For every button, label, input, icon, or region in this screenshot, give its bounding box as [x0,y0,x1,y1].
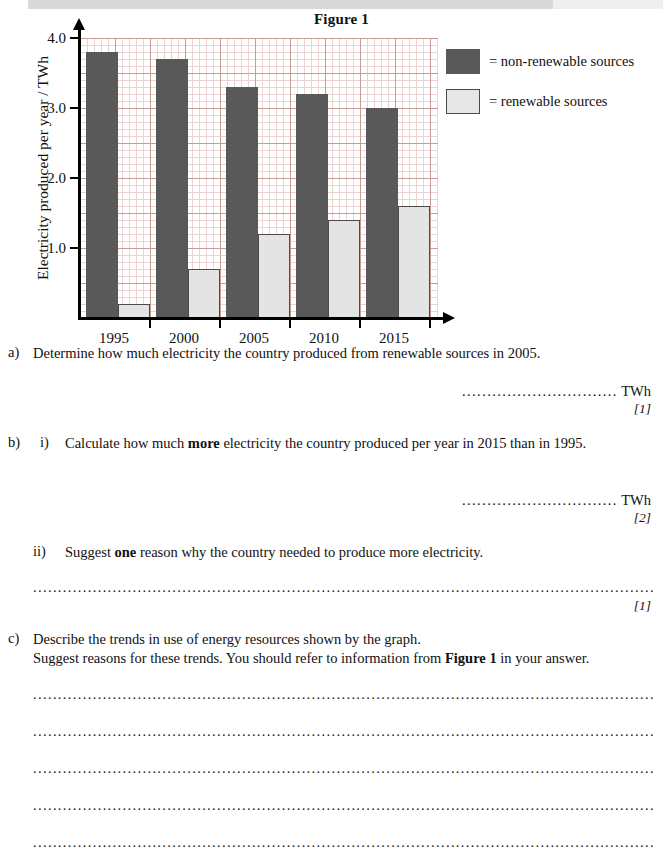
bar-nonrenewable-2005 [226,87,258,318]
y-axis-arrow-icon [73,18,85,30]
question-b-i-text-bold: more [188,435,220,451]
y-tick-mark-4 [70,37,80,39]
legend-swatch-renewable-icon [446,89,480,114]
question-a-marker: a) [8,344,19,361]
question-c-line2-after: in your answer. [497,650,590,666]
question-b-ii-marks: [1] [0,598,663,614]
legend-label-renewable: = renewable sources [489,93,608,110]
question-a-answer-line[interactable]: ............................... TWh [0,383,663,400]
chart-legend: = non-renewable sources = renewable sour… [446,49,661,129]
question-b-i-dots: ............................... [462,492,618,508]
bar-nonrenewable-2000 [156,59,188,318]
bar-renewable-2005 [258,234,290,318]
questions-section: a) Determine how much electricity the co… [0,344,663,851]
question-b-ii-text-after: reason why the country needed to produce… [136,544,483,560]
scan-artifact-band-right [553,0,663,9]
question-a-text: Determine how much electricity the count… [33,344,663,364]
question-c-answer-line-1[interactable]: ........................................… [33,686,653,703]
question-c-line2: Suggest reasons for these trends. You sh… [33,649,663,669]
question-b-ii-text-before: Suggest [65,544,115,560]
question-c-line2-before: Suggest reasons for these trends. You sh… [33,650,445,666]
question-b-i-answer-line[interactable]: ............................... TWh [0,492,663,509]
figure-1-chart: Figure 1 4.0 3.0 2.0 1.0 1995 2000 2005 … [0,9,663,344]
y-axis-title: Electricity produced per year / TWh [34,43,52,293]
question-a: a) Determine how much electricity the co… [0,344,663,364]
x-tick-mark-3 [289,319,291,328]
x-tick-mark-2 [219,319,221,328]
question-b-ii-marker: ii) [33,543,46,560]
plot-area [80,38,438,318]
question-b-ii-text: Suggest one reason why the country neede… [65,543,663,563]
x-tick-mark-1 [149,319,151,328]
question-b-ii-text-bold: one [115,544,137,560]
question-c-answer-line-3[interactable]: ........................................… [33,760,653,777]
bar-renewable-1995 [118,304,150,318]
question-c-marker: c) [8,630,19,647]
question-b-ii-answer-line[interactable]: ........................................… [33,579,653,596]
x-tick-mark-5 [429,319,431,328]
question-a-unit: TWh [621,383,651,399]
question-a-dots: ............................... [462,383,618,399]
question-c: c) Describe the trends in use of energy … [0,630,663,669]
question-b-i-unit: TWh [621,492,651,508]
x-tick-mark-4 [359,319,361,328]
x-axis-line [78,317,444,320]
figure-title: Figure 1 [0,11,663,28]
question-b-i-marker: i) [40,434,49,451]
bar-nonrenewable-2010 [296,94,328,318]
legend-row-nonrenewable: = non-renewable sources [446,49,661,74]
question-c-line2-bold: Figure 1 [445,650,497,666]
y-tick-mark-2 [70,177,80,179]
scan-artifact-band [28,0,553,9]
legend-label-nonrenewable: = non-renewable sources [489,53,634,70]
question-b-i-marks: [2] [0,510,663,526]
question-b-i-text-after: electricity the country produced per yea… [220,435,586,451]
question-b-marker: b) [8,434,20,451]
question-b-i: b) i) Calculate how much more electricit… [0,434,663,454]
legend-row-renewable: = renewable sources [446,89,661,114]
question-c-answer-line-5[interactable]: ........................................… [33,834,653,851]
question-c-line1: Describe the trends in use of energy res… [33,630,663,650]
bar-nonrenewable-1995 [86,52,118,318]
bar-renewable-2000 [188,269,220,318]
x-axis-arrow-icon [443,312,455,324]
bar-renewable-2015 [398,206,430,318]
question-c-answer-line-4[interactable]: ........................................… [33,797,653,814]
question-b-i-text-before: Calculate how much [65,435,188,451]
question-b-ii: ii) Suggest one reason why the country n… [0,543,663,563]
question-a-marks: [1] [0,401,663,417]
y-tick-mark-3 [70,107,80,109]
question-c-answer-line-2[interactable]: ........................................… [33,723,653,740]
y-axis-line [78,28,81,320]
legend-swatch-nonrenewable-icon [446,49,480,74]
question-b-i-text: Calculate how much more electricity the … [65,434,663,454]
y-tick-mark-1 [70,247,80,249]
bar-renewable-2010 [328,220,360,318]
bar-nonrenewable-2015 [366,108,398,318]
question-c-text: Describe the trends in use of energy res… [33,630,663,669]
